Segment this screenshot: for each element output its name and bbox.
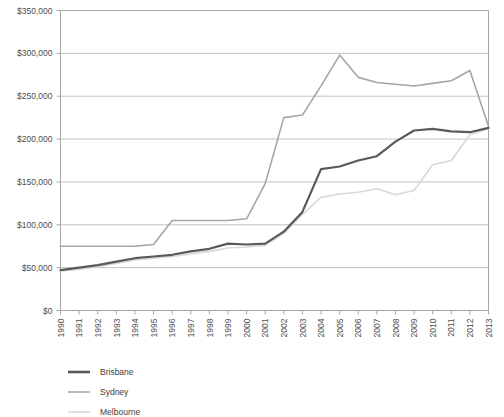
x-tick-label: 1999 [223, 318, 233, 337]
x-tick-label: 2000 [242, 318, 252, 337]
chart-legend: BrisbaneSydneyMelbourne [68, 367, 140, 417]
x-tick-label: 1994 [130, 318, 140, 337]
x-tick-label: 1998 [205, 318, 215, 337]
y-tick-label: $350,000 [17, 6, 53, 16]
y-axis-tickmarks [57, 11, 61, 311]
x-tick-label: 1996 [167, 318, 177, 337]
y-tick-label: $300,000 [17, 48, 53, 58]
legend-label-melbourne: Melbourne [100, 407, 140, 417]
x-tick-label: 2004 [316, 318, 326, 337]
y-tick-label: $50,000 [22, 263, 53, 273]
legend-label-sydney: Sydney [100, 387, 129, 397]
x-axis-labels: 1990199119921993199419951996199719981999… [56, 318, 494, 337]
x-tick-label: 1992 [93, 318, 103, 337]
x-tick-label: 1991 [74, 318, 84, 337]
x-tick-label: 2005 [335, 318, 345, 337]
y-tick-label: $100,000 [17, 220, 53, 230]
x-tick-label: 2002 [279, 318, 289, 337]
legend-label-brisbane: Brisbane [100, 367, 134, 377]
x-tick-label: 1995 [149, 318, 159, 337]
x-tick-label: 2012 [465, 318, 475, 337]
x-tick-label: 2009 [409, 318, 419, 337]
x-tick-label: 1997 [186, 318, 196, 337]
chart-container: $0$50,000$100,000$150,000$200,000$250,00… [0, 0, 504, 417]
x-tick-label: 2008 [391, 318, 401, 337]
x-tick-label: 2001 [260, 318, 270, 337]
x-tick-label: 2006 [353, 318, 363, 337]
x-tick-label: 2011 [446, 318, 456, 337]
data-series [61, 55, 489, 271]
y-tick-label: $200,000 [17, 134, 53, 144]
x-tick-label: 2013 [484, 318, 494, 337]
x-tick-label: 2003 [298, 318, 308, 337]
y-axis-labels: $0$50,000$100,000$150,000$200,000$250,00… [17, 6, 53, 316]
x-axis-tickmarks [61, 311, 489, 315]
gridlines [61, 11, 489, 268]
x-tick-label: 1990 [56, 318, 66, 337]
x-tick-label: 2007 [372, 318, 382, 337]
y-tick-label: $150,000 [17, 177, 53, 187]
plot-area-border [61, 11, 489, 311]
x-tick-label: 2010 [428, 318, 438, 337]
line-chart: $0$50,000$100,000$150,000$200,000$250,00… [0, 0, 504, 417]
x-tick-label: 1993 [112, 318, 122, 337]
y-tick-label: $0 [43, 306, 53, 316]
y-tick-label: $250,000 [17, 91, 53, 101]
series-line-sydney [61, 55, 489, 246]
